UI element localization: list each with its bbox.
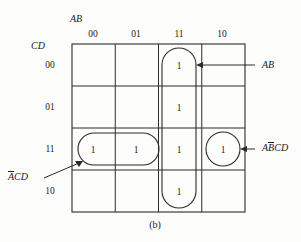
karnaugh-map-figure: AB CD 00 01 11 10 00 01 11 10 xyxy=(0,0,301,242)
annotation-abcd-b-overbar: B xyxy=(268,143,274,153)
cell-value-r0c2: 1 xyxy=(174,62,184,72)
annotation-acd-a-overbar: A xyxy=(8,172,14,182)
cell-value-r3c2: 1 xyxy=(174,188,184,198)
figure-caption: (b) xyxy=(140,220,170,230)
annotation-abcd-rest: CD xyxy=(274,142,288,153)
kmap-graphics xyxy=(0,0,301,242)
annotation-ab: AB xyxy=(262,60,274,70)
annotation-a-not-b-c-d: ABCD xyxy=(262,143,288,153)
annotation-acd-rest: CD xyxy=(14,171,28,182)
cell-value-r2c1: 1 xyxy=(131,146,141,156)
cell-value-r2c2: 1 xyxy=(174,146,184,156)
annotation-not-a-c-d: ACD xyxy=(8,172,28,182)
leader-arrow-ab xyxy=(196,62,203,68)
leader-arrow-abcd xyxy=(240,146,247,152)
cell-value-r1c2: 1 xyxy=(174,104,184,114)
cell-value-r2c0: 1 xyxy=(88,146,98,156)
cell-value-r2c3: 1 xyxy=(218,146,228,156)
annotation-ab-text: AB xyxy=(262,59,274,70)
